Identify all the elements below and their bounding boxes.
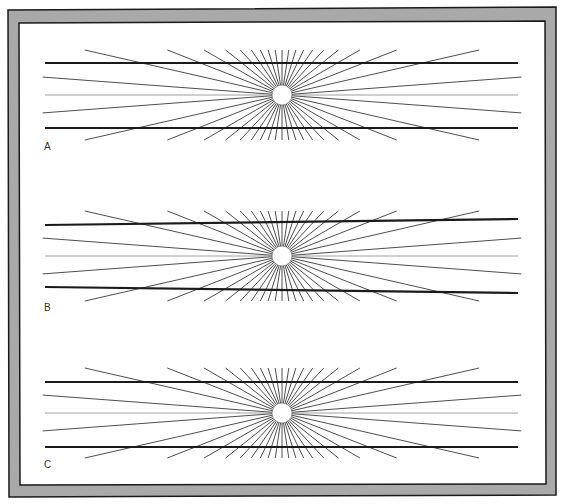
center-circle [272,85,292,105]
center-circle [272,403,292,423]
illusion-figure: A B C [0,0,565,504]
panel-label-b: B [44,302,51,313]
center-circle [272,246,292,266]
panel-label-c: C [44,459,51,470]
panel-label-a: A [44,141,51,152]
